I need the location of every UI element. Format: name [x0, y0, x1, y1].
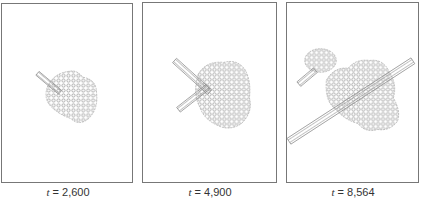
cluster-image-1: [2, 4, 132, 182]
equals-sign: =: [49, 186, 62, 198]
time-value: 8,564: [347, 186, 375, 198]
time-caption-3: t = 8,564: [286, 186, 420, 198]
equals-sign: =: [334, 186, 347, 198]
time-value: 4,900: [204, 186, 232, 198]
time-value: 2,600: [62, 186, 90, 198]
time-caption-2: t = 4,900: [143, 186, 277, 198]
time-caption-1: t = 2,600: [1, 186, 135, 198]
equals-sign: =: [191, 186, 204, 198]
snapshot-panel-2: [142, 2, 277, 183]
cluster-image-2: [143, 3, 276, 182]
snapshot-panel-3: [286, 2, 419, 183]
snapshot-panel-1: [1, 3, 133, 183]
cluster-image-3: [287, 3, 418, 182]
